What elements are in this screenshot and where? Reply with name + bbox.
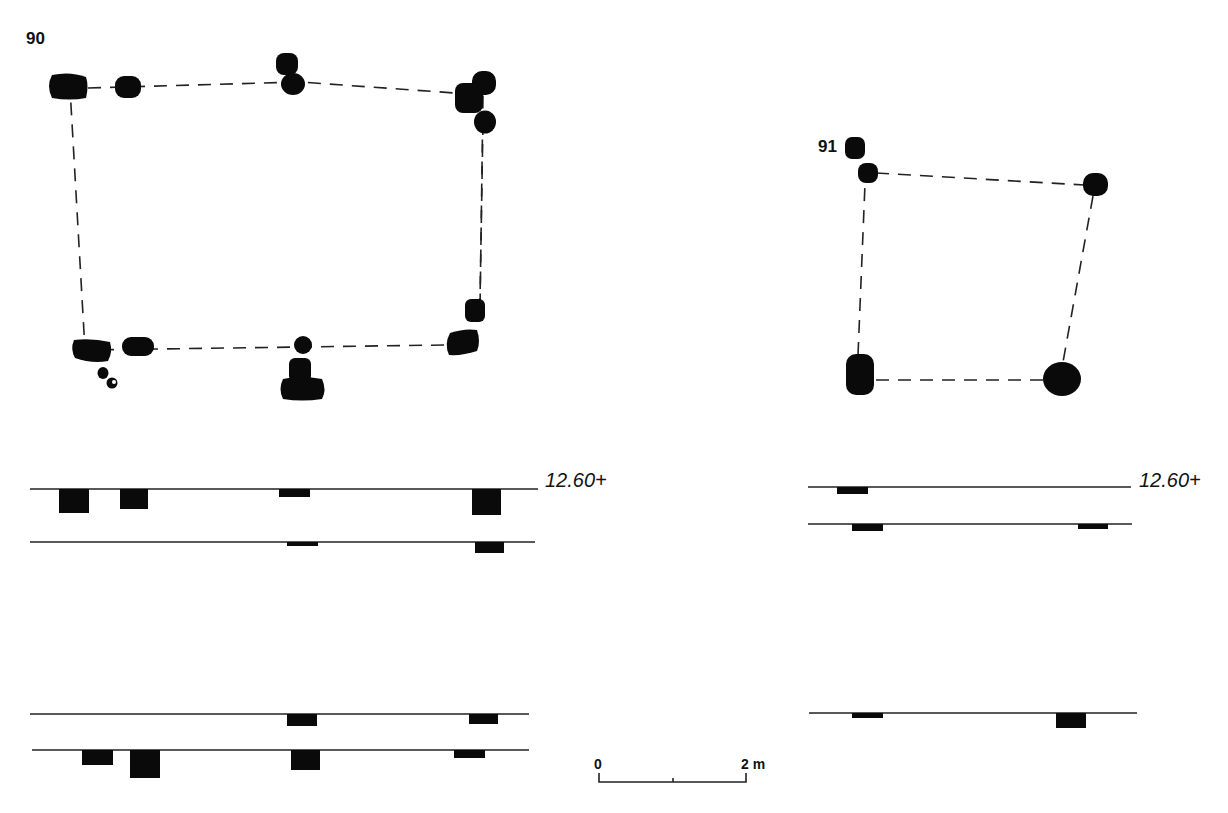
elevation-label: 12.60+: [545, 469, 607, 491]
stone: [276, 53, 298, 75]
site-plan-drawing: 90 91 12: [0, 0, 1228, 813]
stone: [115, 76, 141, 98]
section-block: [120, 489, 148, 509]
stone: [846, 354, 874, 395]
section-block: [469, 714, 498, 724]
scale-end-label: 2 m: [741, 756, 765, 772]
section-block: [287, 542, 318, 546]
stone: [294, 336, 312, 354]
section-block: [472, 489, 501, 515]
section-block: [279, 489, 310, 497]
section-block: [1056, 713, 1086, 728]
stone: [281, 73, 305, 95]
section-block: [59, 489, 89, 513]
stone: [447, 329, 479, 355]
stone: [1083, 173, 1108, 196]
section-block: [130, 750, 160, 778]
section-block: [852, 524, 883, 531]
section-block: [291, 750, 320, 770]
section-block: [1078, 524, 1108, 529]
stone: [281, 377, 325, 401]
section-block: [837, 487, 868, 494]
stone: [465, 299, 485, 322]
structure-91-outline: [858, 173, 1093, 380]
structure-91-label: 91: [818, 137, 837, 156]
stone: [474, 111, 496, 134]
section-block: [287, 714, 317, 726]
stone: [472, 71, 496, 95]
stone: [98, 367, 109, 379]
stone: [858, 163, 878, 183]
section-block: [852, 713, 883, 718]
stone: [1043, 362, 1081, 396]
structure-90-sections: 12.60+: [30, 469, 607, 778]
structure-91-plan: [845, 137, 1108, 396]
stone: [122, 337, 154, 356]
section-block: [454, 750, 485, 758]
stone: [49, 73, 88, 99]
stone: [72, 339, 111, 362]
elevation-label: 12.60+: [1139, 469, 1201, 491]
stone: [107, 378, 118, 389]
structure-90-label: 90: [26, 29, 45, 48]
structure-90-outline: [70, 82, 483, 350]
section-block: [475, 542, 504, 553]
section-block: [82, 750, 113, 765]
scale-bar: 0 2 m: [594, 756, 765, 782]
structure-90-plan: [49, 53, 496, 401]
stone: [845, 137, 865, 159]
structure-91-sections: 12.60+: [808, 469, 1201, 728]
scale-start-label: 0: [594, 756, 602, 772]
